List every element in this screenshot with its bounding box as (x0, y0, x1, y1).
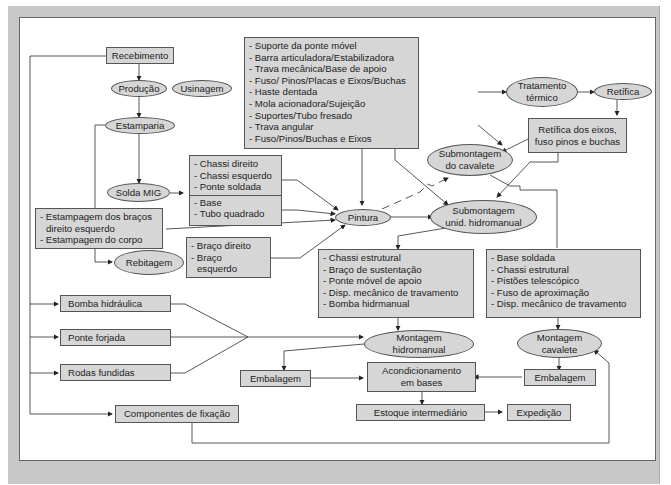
estampagem-list: - Estampagem dos braços direito esquerdo… (35, 208, 163, 249)
cavalete-parts-list: - Base soldada - Chassi estrutural - Pis… (486, 249, 641, 318)
node-usinagem: Usinagem (172, 80, 232, 97)
node-bomba-hidraulica: Bomba hidráulica (60, 295, 171, 312)
list-divider (190, 195, 281, 196)
node-pintura: Pintura (335, 209, 391, 226)
node-estamparia: Estamparia (105, 117, 175, 134)
node-recebimento: Recebimento (106, 47, 174, 64)
node-embalagem-cavalete: Embalagem (524, 369, 596, 386)
node-retifica-eixos: Retífica dos eixos,fuso pinos e buchas (528, 118, 627, 153)
usinagem-parts-list: - Suporte da ponte móvel - Barra articul… (244, 37, 419, 149)
node-solda-mig: Solda MIG (107, 183, 170, 202)
node-acondicionamento: Acondicionamentoem bases (367, 362, 476, 392)
node-rebitagem: Rebitagem (114, 250, 184, 275)
node-estoque-intermediario: Estoque intermediário (356, 404, 485, 421)
node-tratamento-termico: Tratamentotérmico (506, 77, 578, 107)
node-submontagem-hidromanual: Submontagemunid. hidromanual (430, 200, 537, 234)
rebitagem-parts-list: - Braço direito - Braço esquerdo (186, 237, 271, 278)
solda-parts-list: - Chassi direito - Chassi esquerdo - Pon… (189, 155, 282, 226)
node-expedicao: Expedição (507, 404, 571, 421)
hidromanual-parts-list: - Chassi estrutural - Braço de sustentaç… (318, 249, 474, 318)
node-retifica: Retífica (594, 83, 652, 100)
node-embalagem-hidromanual: Embalagem (240, 370, 311, 387)
node-producao: Produção (111, 80, 167, 97)
node-rodas-fundidas: Rodas fundidas (60, 364, 171, 381)
node-ponte-forjada: Ponte forjada (60, 329, 171, 346)
node-componentes-fixacao: Componentes de fixação (115, 405, 239, 423)
node-submontagem-cavalete: Submontagemdo cavalete (427, 144, 513, 176)
node-montagem-cavalete: Montagemcavalete (517, 329, 602, 358)
node-montagem-hidromanual: Montagemhidromanual (364, 330, 474, 358)
